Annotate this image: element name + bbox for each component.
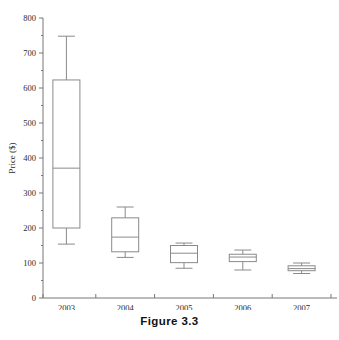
boxplot-chart: 0100200300400500600700800200320042005200… — [0, 0, 339, 310]
y-tick-label: 100 — [23, 258, 36, 268]
boxplot-svg: 0100200300400500600700800200320042005200… — [0, 0, 339, 310]
y-axis-title: Price ($) — [7, 142, 17, 173]
x-tick-label: 2003 — [58, 303, 75, 310]
box-group-2007 — [288, 263, 315, 274]
y-tick-label: 300 — [23, 188, 36, 198]
box-iqr — [229, 254, 256, 261]
x-tick-label: 2006 — [234, 303, 251, 310]
box-group-2005 — [171, 243, 198, 268]
y-tick-label: 800 — [23, 13, 36, 23]
figure-caption: Figure 3.3 — [0, 315, 339, 327]
x-tick-label: 2004 — [117, 303, 135, 310]
y-tick-label: 700 — [23, 48, 36, 58]
figure-container: 0100200300400500600700800200320042005200… — [0, 0, 339, 340]
y-tick-label: 400 — [23, 153, 36, 163]
boxes-group — [53, 36, 315, 273]
box-iqr — [171, 246, 198, 263]
y-tick-label: 200 — [23, 223, 36, 233]
y-tick-label: 600 — [23, 83, 36, 93]
box-group-2006 — [229, 250, 256, 270]
y-tick-label: 500 — [23, 118, 36, 128]
box-group-2004 — [112, 207, 139, 257]
x-tick-label: 2007 — [293, 303, 310, 310]
x-tick-label: 2005 — [176, 303, 193, 310]
box-group-2003 — [53, 36, 80, 244]
box-iqr — [53, 80, 80, 228]
box-iqr — [112, 218, 139, 252]
axes-group — [39, 18, 337, 298]
y-tick-label: 0 — [32, 293, 36, 303]
